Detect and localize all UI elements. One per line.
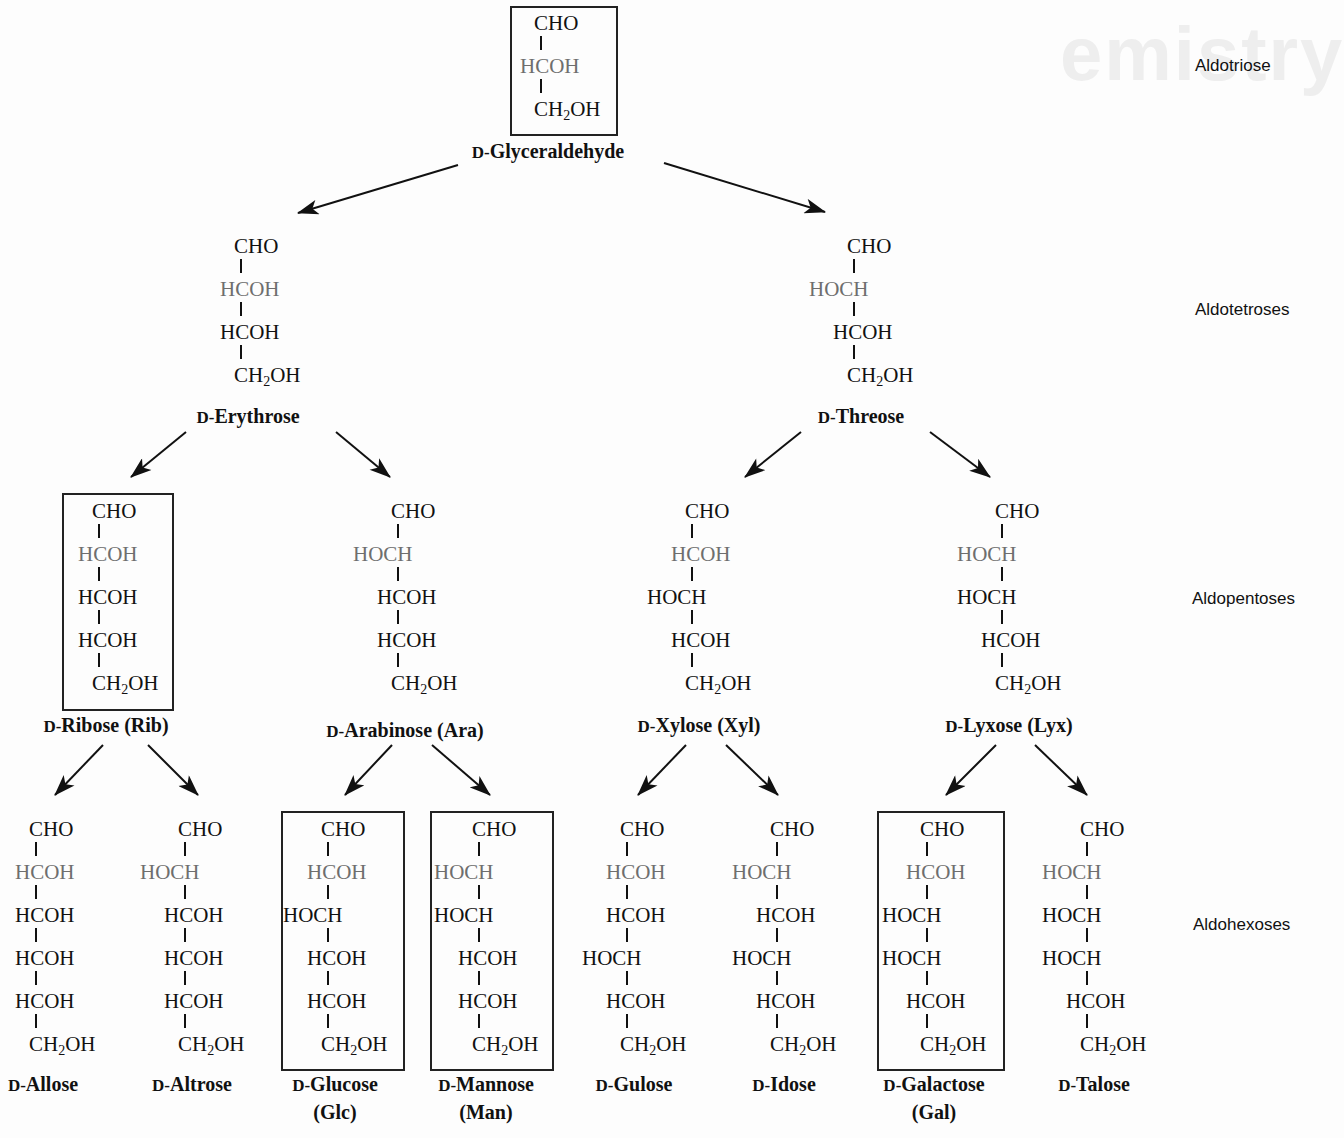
sugar-name-text: Talose [1076,1073,1130,1095]
class-label-aldotriose: Aldotriose [1195,56,1271,76]
bond-line [240,259,242,273]
arrow-erythrose-arabinose [336,432,390,477]
row-hoch: HOCH [582,947,642,969]
row-hcoh: HCOH [756,904,816,926]
sugar-name-text: Glyceraldehyde [490,140,624,162]
row-cho: CHO [234,235,278,257]
row-hoch: HOCH [140,861,200,883]
bond-line [691,524,693,538]
sugar-abbreviation: (Rib) [124,714,168,736]
arrow-ribose-altrose [148,745,198,795]
sugar-name-xylose: D-Xylose (Xyl) [589,712,809,740]
sugar-name-threose: D-Threose [751,403,971,431]
arrow-erythrose-ribose [131,432,186,477]
row-hoch: HOCH [957,543,1017,565]
row-ch2oh: CH2OH [620,1033,687,1055]
d-prefix: D- [596,1076,614,1095]
bond-line [184,928,186,942]
bond-line [35,885,37,899]
sugar-name-text: Threose [836,405,905,427]
arrow-lyxose-talose [1035,745,1087,795]
bond-line [1086,928,1088,942]
arrow-threose-lyxose [930,432,990,477]
row-hoch: HOCH [353,543,413,565]
bond-line [1086,885,1088,899]
sugar-name-text: Ribose [61,714,119,736]
row-hcoh: HCOH [981,629,1041,651]
row-hcoh: HCOH [164,947,224,969]
arrow-arabinose-glucose [345,745,392,795]
row-cho: CHO [178,818,222,840]
row-hcoh: HCOH [606,990,666,1012]
row-ch2oh: CH2OH [770,1033,837,1055]
bond-line [626,1014,628,1028]
sugar-name-text: Allose [26,1073,78,1095]
sugar-name-arabinose: D-Arabinose (Ara) [295,717,515,745]
bond-line [397,567,399,581]
sugar-abbreviation: (Man) [459,1101,512,1123]
highlight-box [281,811,405,1071]
d-prefix: D- [883,1076,901,1095]
d-prefix: D- [818,408,836,427]
row-hcoh: HCOH [671,543,731,565]
bond-line [35,971,37,985]
d-prefix: D- [292,1076,310,1095]
row-cho: CHO [770,818,814,840]
d-prefix: D- [945,717,963,736]
bond-line [853,259,855,273]
bond-line [397,524,399,538]
bond-line [184,971,186,985]
bond-line [240,302,242,316]
sugar-abbreviation: (Lyx) [1027,714,1073,736]
bond-line [397,653,399,667]
row-hcoh: HCOH [220,278,280,300]
row-cho: CHO [847,235,891,257]
sugar-name-text: Glucose [310,1073,378,1095]
row-hcoh: HCOH [377,629,437,651]
highlight-box [510,6,618,136]
bond-line [184,1014,186,1028]
sugar-abbreviation: (Glc) [313,1101,356,1123]
row-hcoh: HCOH [15,990,75,1012]
d-prefix: D- [438,1076,456,1095]
d-prefix: D- [638,717,656,736]
bond-line [397,610,399,624]
row-hoch: HOCH [809,278,869,300]
sugar-abbreviation: (Ara) [437,719,484,741]
row-cho: CHO [29,818,73,840]
row-hcoh: HCOH [15,861,75,883]
arrow-xylose-gulose [638,745,686,795]
bond-line [184,885,186,899]
bond-line [776,971,778,985]
arrow-glyceraldehyde-threose [664,163,825,212]
row-ch2oh: CH2OH [1080,1033,1147,1055]
bond-line [776,885,778,899]
arrow-lyxose-galactose [946,745,996,795]
highlight-box [877,811,1005,1071]
sugar-abbreviation: (Gal) [912,1101,956,1123]
row-ch2oh: CH2OH [29,1033,96,1055]
sugar-name-text: Mannose [456,1073,534,1095]
arrow-threose-xylose [745,432,801,477]
row-hoch: HOCH [957,586,1017,608]
sugar-name-talose: D-Talose [984,1071,1204,1099]
row-hcoh: HCOH [220,321,280,343]
row-hoch: HOCH [1042,904,1102,926]
row-hcoh: HCOH [671,629,731,651]
bond-line [1086,971,1088,985]
row-cho: CHO [620,818,664,840]
d-prefix: D- [8,1076,26,1095]
bond-line [853,345,855,359]
bond-line [35,842,37,856]
row-hoch: HOCH [1042,861,1102,883]
row-hcoh: HCOH [756,990,816,1012]
sugar-name-text: Arabinose [344,719,432,741]
bond-line [853,302,855,316]
bond-line [691,610,693,624]
bond-line [1086,1014,1088,1028]
sugar-name-erythrose: D-Erythrose [138,403,358,431]
d-prefix: D- [472,143,490,162]
row-hoch: HOCH [1042,947,1102,969]
bond-line [691,653,693,667]
arrow-arabinose-mannose [432,745,490,795]
